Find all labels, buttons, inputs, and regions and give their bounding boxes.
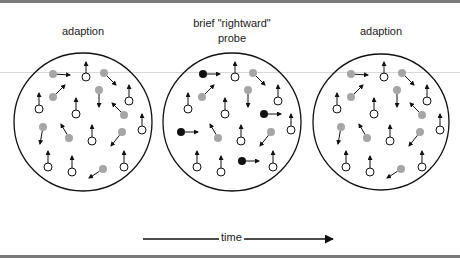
gray-dot-random xyxy=(416,128,424,136)
motion-arrow-icon xyxy=(354,85,363,94)
motion-arrow-icon xyxy=(338,131,340,144)
gray-dot-random xyxy=(244,86,252,94)
gray-dot-random xyxy=(39,123,47,131)
motion-arrow-icon xyxy=(260,135,269,146)
white-dot-upward xyxy=(386,137,394,145)
white-dot-upward xyxy=(193,163,201,171)
black-dot-rightward xyxy=(177,128,185,136)
gray-dot-random xyxy=(363,134,371,142)
gray-dot-random xyxy=(347,70,355,78)
white-dot-upward xyxy=(68,168,76,176)
white-dot-upward xyxy=(82,73,90,81)
white-dot-upward xyxy=(418,163,426,171)
gray-dot-random xyxy=(49,70,57,78)
white-dot-upward xyxy=(436,126,444,134)
motion-adaptation-diagram xyxy=(0,0,460,258)
white-dot-upward xyxy=(370,110,378,118)
white-dot-upward xyxy=(44,163,52,171)
gray-dot-random xyxy=(249,69,257,77)
panel-adaption-left xyxy=(14,53,152,191)
white-dot-upward xyxy=(72,110,80,118)
motion-arrow-icon xyxy=(61,124,67,135)
white-dot-upward xyxy=(333,105,341,113)
time-label: time xyxy=(219,231,244,243)
motion-arrow-icon xyxy=(112,103,121,112)
gray-dot-random xyxy=(337,123,345,131)
white-dot-upward xyxy=(35,105,43,113)
gray-dot-random xyxy=(267,128,275,136)
motion-arrow-icon xyxy=(107,76,116,85)
panel-probe-middle xyxy=(163,53,301,191)
white-dot-upward xyxy=(120,163,128,171)
white-dot-upward xyxy=(380,73,388,81)
white-dot-upward xyxy=(88,137,96,145)
gray-dot-random xyxy=(118,128,126,136)
gray-dot-random xyxy=(347,93,355,101)
gray-dot-random xyxy=(49,93,57,101)
white-dot-upward xyxy=(184,105,192,113)
motion-arrow-icon xyxy=(89,171,100,178)
motion-arrow-icon xyxy=(56,85,65,94)
motion-arrow-icon xyxy=(355,74,368,75)
white-dot-upward xyxy=(287,126,295,134)
motion-arrow-icon xyxy=(210,124,216,135)
white-dot-upward xyxy=(366,168,374,176)
motion-arrow-icon xyxy=(410,103,419,112)
gray-dot-random xyxy=(398,69,406,77)
gray-dot-random xyxy=(100,69,108,77)
motion-arrow-icon xyxy=(405,76,414,85)
motion-arrow-icon xyxy=(57,74,70,75)
black-dot-rightward xyxy=(199,70,207,78)
gray-dot-random xyxy=(99,165,107,173)
gray-dot-random xyxy=(393,86,401,94)
white-dot-upward xyxy=(342,163,350,171)
motion-arrow-icon xyxy=(359,124,365,135)
motion-arrow-icon xyxy=(387,171,398,178)
white-dot-upward xyxy=(237,137,245,145)
gray-dot-random xyxy=(418,111,426,119)
motion-arrow-icon xyxy=(409,135,418,146)
white-dot-upward xyxy=(125,97,133,105)
black-dot-rightward xyxy=(238,157,246,165)
gray-dot-random xyxy=(214,134,222,142)
gray-dot-random xyxy=(198,93,206,101)
white-dot-upward xyxy=(269,163,277,171)
white-dot-upward xyxy=(217,168,225,176)
white-dot-upward xyxy=(423,97,431,105)
white-dot-upward xyxy=(274,97,282,105)
black-dot-rightward xyxy=(260,110,268,118)
gray-dot-random xyxy=(120,111,128,119)
white-dot-upward xyxy=(221,110,229,118)
gray-dot-random xyxy=(65,134,73,142)
white-dot-upward xyxy=(138,126,146,134)
gray-dot-random xyxy=(95,86,103,94)
white-dot-upward xyxy=(231,73,239,81)
motion-arrow-icon xyxy=(205,85,214,94)
motion-arrow-icon xyxy=(40,131,42,144)
gray-dot-random xyxy=(397,165,405,173)
panel-adaption-right xyxy=(313,54,449,190)
motion-arrow-icon xyxy=(256,76,265,85)
motion-arrow-icon xyxy=(111,135,120,146)
